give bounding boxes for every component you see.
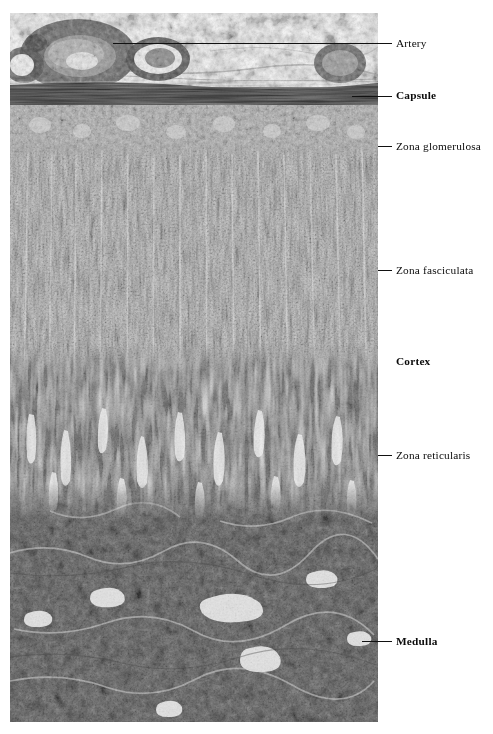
label-medulla: Medulla [396,636,438,647]
label-capsule: Capsule [396,90,436,101]
global-film-grain [10,13,378,722]
leader-line-medulla [362,641,392,642]
label-zona-fasciculata: Zona fasciculata [396,265,474,276]
leader-line-zona-fasciculata [378,270,392,271]
figure-adrenal-gland-micrograph: Artery Capsule Zona glomerulosa Zona fas… [0,0,493,734]
label-artery: Artery [396,38,427,49]
label-zona-glomerulosa: Zona glomerulosa [396,141,481,152]
leader-line-capsule [352,96,392,97]
micrograph-image [10,13,378,722]
leader-line-zona-reticularis [378,455,392,456]
micrograph-canvas [10,13,378,722]
leader-line-artery [113,43,392,44]
leader-line-zona-glomerulosa [378,146,392,147]
label-zona-reticularis: Zona reticularis [396,450,470,461]
label-cortex: Cortex [396,356,430,367]
